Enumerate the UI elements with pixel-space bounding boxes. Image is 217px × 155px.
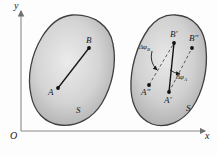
point-label-B: B bbox=[86, 36, 92, 45]
point-label-A-prime: A' bbox=[164, 96, 171, 105]
point-label-A: A bbox=[48, 88, 54, 97]
angle-label-phi-A-text: Δφ bbox=[176, 73, 184, 81]
angle-label-phi-A-sub: A bbox=[184, 77, 187, 82]
angle-label-phi-B: ΔφB bbox=[139, 44, 150, 52]
axis-label-x: x bbox=[205, 131, 209, 141]
point-label-B-prime: B' bbox=[170, 30, 177, 39]
point-label-A-double-prime: A" bbox=[141, 88, 150, 97]
axis-label-y: y bbox=[14, 1, 18, 11]
region-label-S-initial: S bbox=[76, 106, 81, 115]
region-label-S-displaced: S bbox=[186, 104, 191, 113]
angle-label-phi-B-sub: B bbox=[147, 47, 150, 52]
figure-canvas: y x O A B S A' A" B' B" S ΔφB ΔφA bbox=[0, 0, 217, 155]
angle-label-phi-A: ΔφA bbox=[176, 74, 187, 82]
angle-label-phi-B-text: Δφ bbox=[139, 43, 147, 51]
body-displaced-shape bbox=[131, 15, 207, 126]
axis-label-origin: O bbox=[10, 131, 17, 141]
point-label-B-double-prime: B" bbox=[189, 34, 198, 43]
